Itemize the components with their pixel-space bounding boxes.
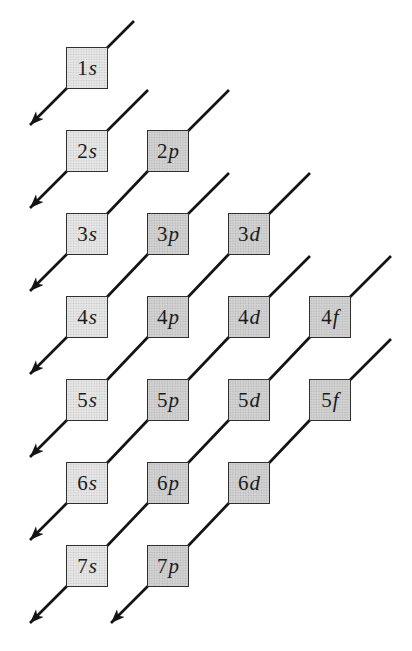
subshell-letter: p [169, 307, 180, 328]
subshell-letter: s [89, 307, 97, 328]
orbital-box-6d: 6d [228, 462, 270, 504]
orbital-filling-order-diagram: 1s2s2p3s3p3d4s4p4d4f5s5p5d5f6s6p6d7s7p [0, 0, 412, 651]
orbital-box-5s: 5s [66, 379, 108, 421]
subshell-letter: d [250, 390, 261, 411]
subshell-letter: p [169, 390, 180, 411]
principal-quantum-number: 4 [321, 307, 332, 328]
orbital-box-4p: 4p [147, 296, 189, 338]
orbital-box-4s: 4s [66, 296, 108, 338]
subshell-letter: s [89, 473, 97, 494]
principal-quantum-number: 3 [157, 224, 168, 245]
orbital-box-1s: 1s [66, 47, 108, 89]
subshell-letter: p [169, 556, 180, 577]
principal-quantum-number: 5 [321, 390, 332, 411]
subshell-letter: d [250, 473, 261, 494]
orbital-box-3d: 3d [228, 213, 270, 255]
orbital-box-2p: 2p [147, 130, 189, 172]
principal-quantum-number: 4 [238, 307, 249, 328]
orbital-box-4d: 4d [228, 296, 270, 338]
orbital-box-5d: 5d [228, 379, 270, 421]
subshell-letter: d [250, 307, 261, 328]
principal-quantum-number: 5 [157, 390, 168, 411]
orbital-box-6s: 6s [66, 462, 108, 504]
principal-quantum-number: 5 [238, 390, 249, 411]
principal-quantum-number: 2 [77, 141, 88, 162]
principal-quantum-number: 4 [157, 307, 168, 328]
principal-quantum-number: 1 [77, 58, 88, 79]
orbital-box-7p: 7p [147, 545, 189, 587]
subshell-letter: s [89, 390, 97, 411]
subshell-letter: s [89, 556, 97, 577]
subshell-letter: d [250, 224, 261, 245]
subshell-letter: s [89, 224, 97, 245]
orbital-box-3s: 3s [66, 213, 108, 255]
subshell-letter: p [169, 141, 180, 162]
principal-quantum-number: 6 [77, 473, 88, 494]
principal-quantum-number: 3 [77, 224, 88, 245]
subshell-letter: f [333, 390, 339, 411]
subshell-letter: f [333, 307, 339, 328]
orbital-box-3p: 3p [147, 213, 189, 255]
principal-quantum-number: 3 [238, 224, 249, 245]
principal-quantum-number: 7 [77, 556, 88, 577]
orbital-box-2s: 2s [66, 130, 108, 172]
orbital-box-7s: 7s [66, 545, 108, 587]
subshell-letter: p [169, 224, 180, 245]
subshell-letter: s [89, 58, 97, 79]
principal-quantum-number: 5 [77, 390, 88, 411]
principal-quantum-number: 2 [157, 141, 168, 162]
subshell-letter: p [169, 473, 180, 494]
principal-quantum-number: 4 [77, 307, 88, 328]
orbital-box-5f: 5f [309, 379, 351, 421]
orbital-box-5p: 5p [147, 379, 189, 421]
orbital-box-4f: 4f [309, 296, 351, 338]
principal-quantum-number: 6 [238, 473, 249, 494]
subshell-letter: s [89, 141, 97, 162]
orbital-box-6p: 6p [147, 462, 189, 504]
orbital-boxes-layer: 1s2s2p3s3p3d4s4p4d4f5s5p5d5f6s6p6d7s7p [0, 0, 412, 651]
principal-quantum-number: 7 [157, 556, 168, 577]
principal-quantum-number: 6 [157, 473, 168, 494]
